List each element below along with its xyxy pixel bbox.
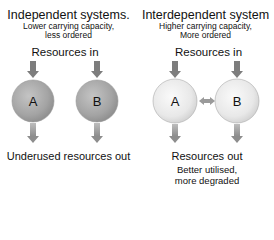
right-input-arrow-b	[231, 61, 243, 78]
right-output-sub-1: Better utilised,	[140, 164, 274, 175]
left-node-b: B	[76, 80, 118, 122]
right-input-arrow-a	[169, 61, 181, 78]
left-node-a-label: A	[29, 94, 38, 109]
left-output-label: Underused resources out	[0, 150, 137, 162]
right-output-label: Resources out	[140, 150, 274, 162]
right-node-a: A	[153, 79, 197, 123]
bidirectional-arrow-icon	[199, 97, 215, 105]
right-node-b: B	[215, 79, 259, 123]
left-node-b-label: B	[93, 94, 102, 109]
left-output-arrow-a	[27, 123, 39, 143]
left-node-a: A	[12, 80, 54, 122]
left-output-arrow-b	[91, 123, 103, 143]
right-node-b-label: B	[233, 94, 242, 109]
right-output-arrow-b	[231, 124, 243, 143]
right-output-arrow-a	[169, 124, 181, 143]
right-node-a-label: A	[171, 94, 180, 109]
left-input-arrow-b	[91, 61, 103, 78]
left-input-arrow-a	[27, 61, 39, 78]
right-output-sub-2: more degraded	[140, 175, 274, 186]
